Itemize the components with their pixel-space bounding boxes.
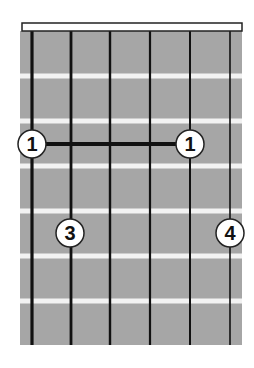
finger-marker: 4 xyxy=(216,219,244,247)
fret-line-5 xyxy=(20,254,242,259)
finger-number: 1 xyxy=(184,133,195,155)
finger-marker: 1 xyxy=(18,130,46,158)
nut xyxy=(22,23,242,31)
finger-marker: 3 xyxy=(56,219,84,247)
fret-line-3 xyxy=(20,164,242,169)
fret-line-4 xyxy=(20,209,242,214)
fret-line-1 xyxy=(20,74,242,79)
chord-diagram: 1134 xyxy=(0,0,254,368)
finger-number: 3 xyxy=(64,222,75,244)
finger-number: 4 xyxy=(224,222,236,244)
finger-marker: 1 xyxy=(176,130,204,158)
fret-line-2 xyxy=(20,119,242,124)
finger-number: 1 xyxy=(26,133,37,155)
fret-line-6 xyxy=(20,299,242,304)
